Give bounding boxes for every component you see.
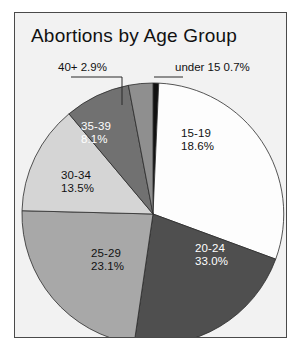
pie-label-40-plus: 40+ 2.9% [58,61,107,74]
pie-label-40-plus-name: 40+ [58,61,78,73]
pie-label-15-19-pct: 18.6% [181,140,214,153]
pie-label-25-29: 25-29 23.1% [91,247,124,273]
pie-label-under-15: under 15 0.7% [175,61,250,74]
pie-label-15-19-name: 15-19 [181,127,211,139]
pie-label-15-19: 15-19 18.6% [181,127,214,153]
pie-label-30-34-name: 30-34 [61,169,91,181]
pie-label-35-39-pct: 8.1% [81,133,111,146]
pie-label-20-24-name: 20-24 [195,242,225,254]
pie-slice-25-29[interactable] [22,211,153,337]
pie-label-30-34: 30-34 13.5% [61,169,94,195]
pie-label-20-24-pct: 33.0% [195,255,228,268]
pie-label-20-24: 20-24 33.0% [195,242,228,268]
pie-label-35-39: 35-39 8.1% [81,120,111,146]
clipped-caption-strip [14,344,287,353]
pie-label-25-29-pct: 23.1% [91,260,124,273]
pie-label-40-plus-pct: 2.9% [81,61,107,73]
pie-label-25-29-name: 25-29 [91,247,121,259]
pie-label-under-15-pct: 0.7% [224,61,250,73]
pie-label-30-34-pct: 13.5% [61,182,94,195]
pie-label-under-15-name: under 15 [175,61,220,73]
chart-figure: Abortions by Age Group [14,12,287,338]
pie-label-35-39-name: 35-39 [81,120,111,132]
pie-slices [22,83,284,337]
